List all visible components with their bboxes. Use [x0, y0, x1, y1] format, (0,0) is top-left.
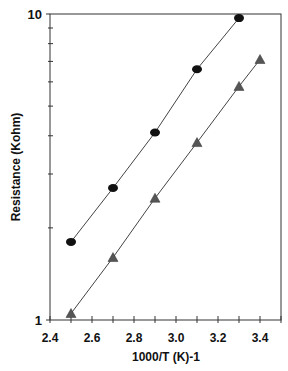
data-series	[66, 14, 265, 317]
y-tick-label: 10	[28, 7, 42, 22]
circle-marker	[192, 65, 202, 73]
circle-marker	[108, 184, 118, 192]
x-tick-label: 2.6	[84, 331, 101, 345]
y-axis-ticks: 110	[28, 7, 53, 328]
circle-marker	[66, 238, 76, 246]
x-tick-label: 2.4	[42, 331, 59, 345]
circle-marker	[150, 128, 160, 136]
x-tick-label: 2.8	[126, 331, 143, 345]
y-tick-label: 1	[35, 313, 42, 328]
circle-marker	[234, 14, 244, 22]
triangle-marker	[192, 138, 202, 147]
triangle-marker	[66, 309, 76, 318]
triangle-marker	[108, 253, 118, 262]
x-tick-label: 3.2	[210, 331, 227, 345]
x-axis-label: 1000/T (K)-1	[132, 350, 200, 364]
y-axis-label: Resistance (Kohm)	[9, 113, 23, 222]
x-tick-label: 3.0	[168, 331, 185, 345]
chart: 2.42.62.83.03.23.4 110 1000/T (K)-1 Resi…	[0, 0, 288, 371]
triangle-marker	[255, 55, 265, 64]
x-tick-label: 3.4	[252, 331, 269, 345]
plot-frame	[50, 14, 281, 320]
triangle-marker	[234, 81, 244, 90]
series-line	[71, 60, 260, 314]
triangle-marker	[150, 193, 160, 202]
